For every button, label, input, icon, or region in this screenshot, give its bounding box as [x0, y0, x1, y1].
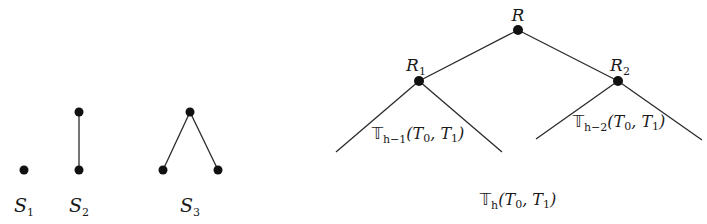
s1-node	[20, 166, 29, 175]
structure-s3: S3	[159, 108, 223, 220]
s3-label: S3	[180, 194, 200, 219]
edge-root-right	[518, 30, 618, 81]
tree-diagram: S1 S2 S3 R R1 R2 𝕋h−1(T0, T1) 𝕋h−2(T0,	[0, 0, 707, 224]
s3-right-node	[214, 166, 223, 175]
left-subtree-label: 𝕋h−1(T0, T1)	[371, 124, 465, 146]
s3-left-node	[159, 166, 168, 175]
root-label: R	[511, 5, 525, 25]
right-subtree-label: 𝕋h−2(T0, T1)	[572, 112, 666, 134]
root-node	[513, 25, 523, 35]
recursive-tree: R R1 R2 𝕋h−1(T0, T1) 𝕋h−2(T0, T1) 𝕋h(T0,…	[336, 5, 702, 212]
r2-node	[613, 76, 623, 86]
structure-s1: S1	[14, 166, 34, 220]
s1-label: S1	[14, 194, 34, 219]
structure-s2: S2	[69, 108, 89, 220]
s2-bottom-node	[75, 166, 84, 175]
r2-label: R2	[609, 55, 630, 78]
s2-label: S2	[69, 194, 89, 219]
edge-root-left	[419, 30, 518, 81]
s3-edge-left	[163, 112, 190, 170]
r1-label: R1	[405, 55, 426, 78]
tree-caption: 𝕋h(T0, T1)	[479, 190, 556, 212]
s3-top-node	[186, 108, 195, 117]
s3-edge-right	[190, 112, 218, 170]
s2-top-node	[75, 108, 84, 117]
